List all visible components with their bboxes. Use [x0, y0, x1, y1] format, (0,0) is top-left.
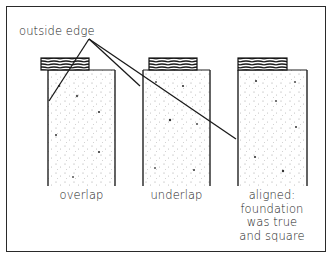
panel-aligned: [238, 58, 307, 186]
foundation-wall: [238, 70, 307, 186]
panel-underlap: [143, 58, 210, 186]
caption-underlap: underlap: [143, 189, 210, 203]
foundation-wall: [143, 70, 210, 186]
sill-plate: [41, 58, 89, 70]
sill-plate: [149, 58, 197, 70]
caption-overlap: overlap: [48, 189, 115, 203]
sill-plate: [238, 58, 287, 70]
caption-aligned: aligned: foundation was true and square: [234, 189, 310, 243]
callout-label: outside edge: [19, 25, 95, 39]
panel-overlap: [41, 58, 115, 186]
